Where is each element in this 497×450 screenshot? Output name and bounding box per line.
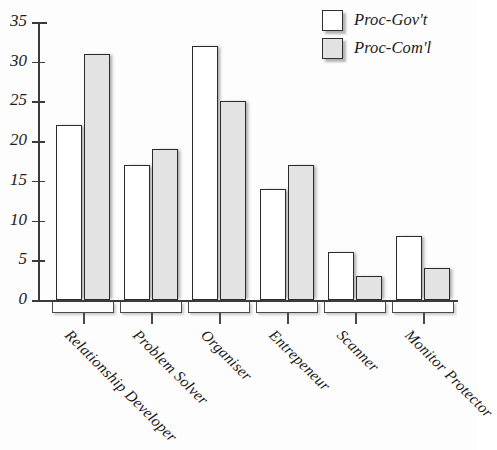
y-tick-label-5: 5 <box>19 249 28 269</box>
y-tick-label-25: 25 <box>10 90 27 110</box>
x-label-organiser: Organiser <box>197 326 256 385</box>
y-tick-label-20: 20 <box>10 130 27 150</box>
category-bracket-stem-1 <box>151 313 153 324</box>
bar-proc-coml-2 <box>220 101 246 300</box>
bar-proc-govt-1 <box>124 165 150 300</box>
bar-proc-govt-2 <box>192 46 218 300</box>
y-tick-35: 35 <box>32 22 45 24</box>
bar-proc-coml-0 <box>84 54 110 300</box>
category-bracket-2 <box>188 302 250 313</box>
category-bracket-5 <box>392 302 454 313</box>
y-tick-5: 5 <box>32 260 45 262</box>
y-tick-label-10: 10 <box>10 210 27 230</box>
x-label-entrepeneur: Entrepeneur <box>265 326 334 395</box>
x-label-scanner: Scanner <box>333 326 383 376</box>
category-bracket-3 <box>256 302 318 313</box>
y-tick-label-30: 30 <box>10 51 27 71</box>
x-label-relationship-developer: Relationship Developer <box>61 326 181 446</box>
bar-proc-govt-0 <box>56 125 82 300</box>
y-tick-25: 25 <box>32 101 45 103</box>
plot-area: 05101520253035 <box>38 22 458 300</box>
y-tick-label-35: 35 <box>10 11 27 31</box>
category-bracket-0 <box>52 302 114 313</box>
y-tick-20: 20 <box>32 141 45 143</box>
x-label-monitor-protector: Monitor Protector <box>401 326 496 421</box>
category-bracket-stem-5 <box>423 313 425 324</box>
bar-proc-coml-3 <box>288 165 314 300</box>
category-bracket-stem-3 <box>287 313 289 324</box>
category-bracket-stem-4 <box>355 313 357 324</box>
bar-proc-coml-4 <box>356 276 382 300</box>
category-bracket-stem-0 <box>83 313 85 324</box>
category-bracket-stem-2 <box>219 313 221 324</box>
bar-proc-govt-3 <box>260 189 286 300</box>
y-tick-10: 10 <box>32 221 45 223</box>
y-tick-label-0: 0 <box>19 289 28 309</box>
y-axis-line <box>38 22 40 300</box>
y-tick-label-15: 15 <box>10 170 27 190</box>
category-bracket-4 <box>324 302 386 313</box>
category-bracket-1 <box>120 302 182 313</box>
bar-proc-coml-1 <box>152 149 178 300</box>
y-tick-30: 30 <box>32 62 45 64</box>
y-tick-15: 15 <box>32 181 45 183</box>
bar-proc-govt-4 <box>328 252 354 300</box>
bar-proc-coml-5 <box>424 268 450 300</box>
bar-proc-govt-5 <box>396 236 422 300</box>
y-tick-0: 0 <box>32 300 45 302</box>
